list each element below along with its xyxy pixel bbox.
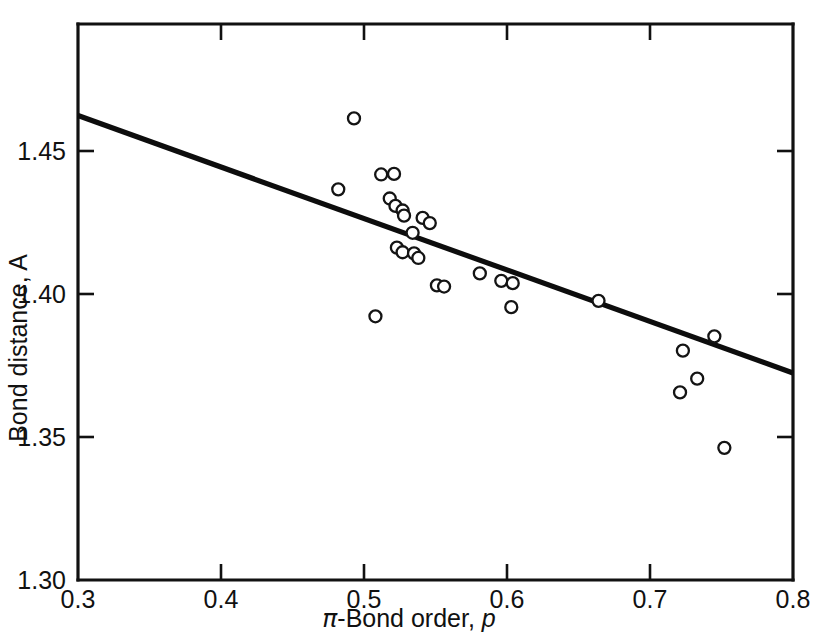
data-point — [677, 345, 689, 357]
data-point — [691, 373, 703, 385]
x-axis-title: π-Bond order, p — [322, 604, 496, 633]
data-point — [407, 227, 419, 239]
x-tick-label-0.4: 0.4 — [204, 585, 239, 613]
regression-line — [78, 116, 793, 373]
fit-line — [78, 116, 793, 373]
data-point — [397, 246, 409, 258]
data-point — [424, 217, 436, 229]
axes — [78, 24, 793, 580]
data-point — [398, 210, 410, 222]
data-point — [674, 386, 686, 398]
data-point — [507, 277, 519, 289]
data-point — [718, 442, 730, 454]
data-point — [388, 168, 400, 180]
data-point — [474, 267, 486, 279]
y-axis-title: Bond distance, A — [4, 254, 32, 442]
data-point — [375, 168, 387, 180]
data-points — [332, 112, 730, 453]
x-axis-variable: p — [481, 604, 496, 632]
data-point — [348, 112, 360, 124]
data-point — [412, 252, 424, 264]
figure-container: 0.30.40.50.60.70.8 1.301.351.401.45 π-Bo… — [0, 0, 818, 634]
data-point — [708, 330, 720, 342]
data-point — [593, 295, 605, 307]
data-point — [495, 275, 507, 287]
y-tick-label-1.30: 1.30 — [17, 566, 66, 594]
pi-symbol: π — [322, 604, 338, 633]
scatter-plot: 0.30.40.50.60.70.8 1.301.351.401.45 π-Bo… — [0, 0, 818, 634]
data-point — [505, 301, 517, 313]
data-point — [369, 310, 381, 322]
data-point — [438, 281, 450, 293]
y-tick-label-1.45: 1.45 — [17, 137, 66, 165]
x-tick-label-0.7: 0.7 — [633, 585, 668, 613]
x-tick-label-0.8: 0.8 — [776, 585, 811, 613]
tick-marks — [78, 24, 793, 580]
data-point — [332, 183, 344, 195]
x-axis-title-text: -Bond order, — [337, 604, 482, 632]
